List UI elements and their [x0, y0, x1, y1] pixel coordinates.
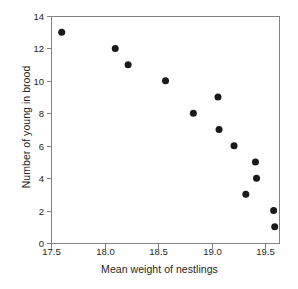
data-point	[231, 142, 238, 149]
data-point	[214, 94, 221, 101]
plot-frame	[52, 17, 280, 244]
y-tick-label: 0	[18, 238, 44, 249]
x-tick-label: 19.0	[193, 246, 233, 257]
y-axis-title: Number of young in brood	[20, 27, 32, 227]
data-point	[271, 223, 278, 230]
x-tick-label: 19.5	[246, 246, 286, 257]
data-point-series	[58, 29, 278, 231]
data-point	[162, 77, 169, 84]
data-point	[190, 110, 197, 117]
x-tick-label: 18.0	[86, 246, 126, 257]
y-tick-label: 14	[18, 11, 44, 22]
x-axis-title: Mean weight of nestlings	[51, 263, 268, 275]
data-point	[253, 175, 260, 182]
data-point	[125, 61, 132, 68]
scatter-plot-figure: 17.518.018.519.019.5 02468101214 Mean we…	[0, 0, 298, 289]
data-point	[58, 29, 65, 36]
data-point	[112, 45, 119, 52]
y-axis-ticks	[47, 17, 52, 244]
data-point	[216, 126, 223, 133]
x-tick-label: 18.5	[139, 246, 179, 257]
data-point	[270, 207, 277, 214]
data-point	[252, 158, 259, 165]
data-point	[242, 191, 249, 198]
